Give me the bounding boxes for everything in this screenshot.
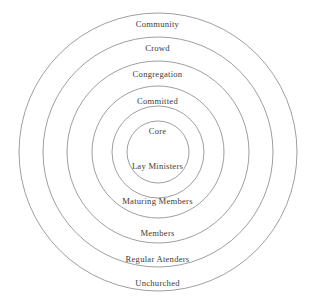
circles-canvas	[0, 0, 315, 304]
circle-innermost	[127, 121, 189, 183]
concentric-circles-diagram: Community Crowd Congregation Committed C…	[0, 0, 315, 304]
circle-congregation	[67, 61, 249, 243]
circle-core	[112, 106, 204, 198]
circle-crowd	[43, 37, 273, 267]
circle-community	[19, 13, 297, 291]
